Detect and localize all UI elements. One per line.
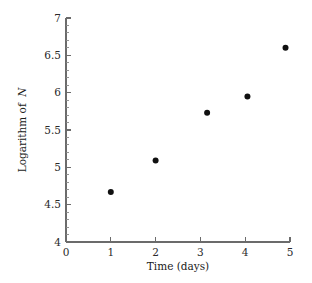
y-axis-title: Logarithm of N [16,87,28,172]
y-tick-label: 5 [54,161,61,173]
y-axis-tick-labels: 44.555.566.57 [44,12,61,248]
x-tick-label: 4 [242,246,249,258]
y-tick-label: 4 [54,236,61,248]
scatter-chart-figure: 44.555.566.57 012345 Time (days) Logarit… [0,0,312,283]
data-point [244,93,250,99]
data-point [283,45,289,51]
y-axis-title-group: Logarithm of N [16,87,28,172]
x-tick-label: 2 [152,246,159,258]
data-point [204,110,210,116]
x-axis: 012345 [63,237,294,258]
y-axis-title-symbol: N [16,87,28,98]
y-tick-label: 7 [54,12,61,24]
y-axis-title-text: Logarithm of [16,102,28,172]
y-axis-major-ticks [66,18,71,242]
y-tick-label: 5.5 [44,124,61,136]
x-tick-label: 5 [287,246,294,258]
data-series-points [108,45,289,195]
data-point [153,158,159,164]
x-tick-label: 3 [197,246,204,258]
x-axis-major-ticks [66,237,290,242]
x-axis-tick-labels: 012345 [63,246,294,258]
x-tick-label: 1 [107,246,114,258]
chart-canvas: 44.555.566.57 012345 Time (days) Logarit… [0,0,312,283]
data-point [108,189,114,195]
x-axis-title: Time (days) [147,260,209,272]
y-tick-label: 6.5 [44,49,61,61]
y-tick-label: 4.5 [44,198,61,210]
y-axis: 44.555.566.57 [44,12,71,248]
x-tick-label: 0 [63,246,70,258]
y-tick-label: 6 [54,86,61,98]
